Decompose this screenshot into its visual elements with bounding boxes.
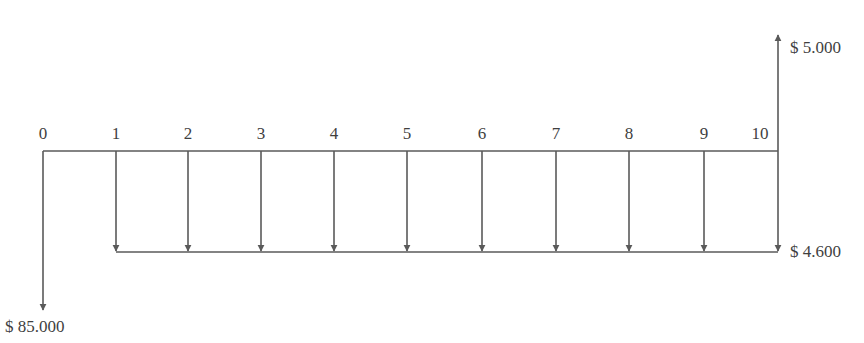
annual-outflow-label: $ 4.600 — [790, 242, 841, 262]
initial-outflow-label: $ 85.000 — [5, 317, 65, 337]
final-inflow-label: $ 5.000 — [790, 38, 841, 58]
period-label-6: 6 — [478, 124, 487, 144]
period-label-10: 10 — [752, 124, 769, 144]
period-label-9: 9 — [700, 124, 709, 144]
period-label-2: 2 — [184, 124, 193, 144]
period-label-4: 4 — [330, 124, 339, 144]
period-label-0: 0 — [39, 124, 48, 144]
cash-flow-arrows — [43, 35, 778, 310]
period-label-8: 8 — [625, 124, 634, 144]
period-label-1: 1 — [112, 124, 121, 144]
period-label-3: 3 — [257, 124, 266, 144]
period-label-7: 7 — [552, 124, 561, 144]
period-label-5: 5 — [403, 124, 412, 144]
cash-flow-diagram — [0, 0, 864, 343]
